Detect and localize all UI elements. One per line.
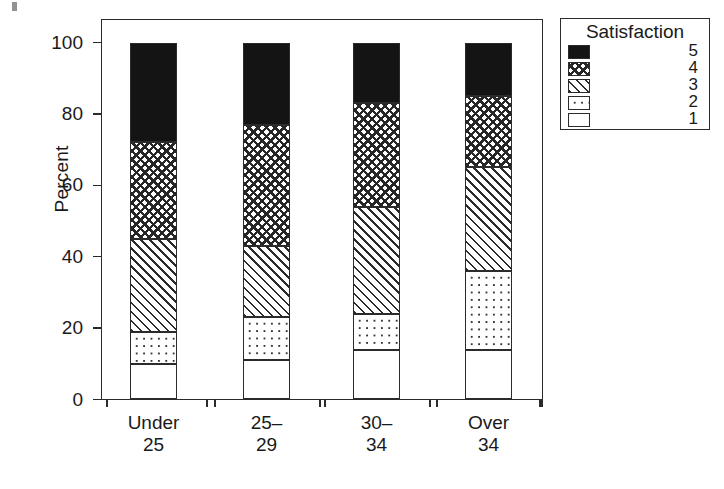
- bar-segment-level-4: [353, 103, 400, 207]
- legend-swatch-dot-grid: [568, 96, 590, 110]
- x-tick-mark: [539, 400, 541, 407]
- bar-segment-level-5: [353, 43, 400, 104]
- stacked-bar-chart-figure: Percent 020406080100 Under2525–2930–34Ov…: [0, 0, 724, 489]
- bar-segment-level-5: [243, 43, 290, 125]
- legend-item-5[interactable]: 5: [568, 45, 704, 60]
- bar-segment-level-3: [465, 167, 512, 271]
- x-tick-mark: [436, 400, 438, 407]
- stacked-bar: [243, 43, 290, 400]
- legend-swatch-solid-black: [568, 45, 590, 59]
- y-tick-mark: [93, 327, 101, 329]
- x-tick-label-line: Over: [419, 412, 559, 434]
- bar-segment-level-1: [465, 350, 512, 400]
- y-tick-label: 0: [29, 390, 83, 409]
- x-tick-mark: [214, 400, 216, 407]
- x-tick-mark: [106, 400, 108, 407]
- x-tick-mark: [324, 400, 326, 407]
- legend-item-4[interactable]: 4: [568, 62, 704, 77]
- y-tick-mark: [93, 399, 101, 401]
- y-tick-mark: [93, 256, 101, 258]
- legend-swatch-empty-white: [568, 113, 590, 127]
- legend-swatch-diagonal-hatch: [568, 79, 590, 93]
- x-tick-label-line: 34: [419, 434, 559, 456]
- bar-segment-level-2: [130, 332, 177, 364]
- bar-segment-level-4: [130, 142, 177, 238]
- x-tick-mark: [429, 400, 431, 407]
- legend-title: Satisfaction: [561, 21, 709, 43]
- y-tick-label: 20: [29, 318, 83, 337]
- x-tick-mark: [319, 400, 321, 407]
- y-tick-mark: [93, 185, 101, 187]
- bar-segment-level-3: [243, 246, 290, 317]
- stacked-bar: [130, 43, 177, 400]
- bar-segment-level-5: [465, 43, 512, 97]
- bar-segment-level-1: [130, 364, 177, 400]
- bar-segment-level-1: [243, 360, 290, 399]
- stacked-bar: [353, 43, 400, 400]
- bar-segment-level-4: [243, 125, 290, 246]
- y-tick-label: 80: [29, 104, 83, 123]
- legend-item-2[interactable]: 2: [568, 96, 704, 111]
- bar-segment-level-1: [353, 350, 400, 400]
- bar-segment-level-3: [130, 239, 177, 332]
- legend-swatch-cross-hatch: [568, 62, 590, 76]
- bar-segment-level-2: [465, 271, 512, 350]
- y-tick-label: 60: [29, 175, 83, 194]
- bar-segment-level-2: [243, 317, 290, 360]
- legend-label: 1: [689, 110, 698, 128]
- bar-segment-level-4: [465, 96, 512, 167]
- bar-segment-level-5: [130, 43, 177, 143]
- y-tick-label: 40: [29, 247, 83, 266]
- legend-item-3[interactable]: 3: [568, 79, 704, 94]
- legend-item-1[interactable]: 1: [568, 113, 704, 128]
- y-tick-mark: [93, 113, 101, 115]
- stacked-bar: [465, 43, 512, 400]
- x-tick-mark: [541, 400, 543, 407]
- legend-box: Satisfaction 54321: [560, 18, 710, 130]
- y-tick-mark: [93, 42, 101, 44]
- bar-segment-level-3: [353, 207, 400, 314]
- bar-segment-level-2: [353, 314, 400, 350]
- x-tick-mark: [206, 400, 208, 407]
- x-tick-label: Over34: [419, 412, 559, 456]
- y-tick-label: 100: [29, 33, 83, 52]
